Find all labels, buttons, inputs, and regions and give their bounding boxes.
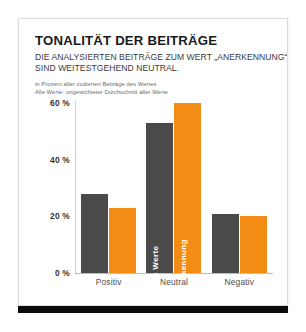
bar-neutral-alle-werte[interactable]: Alle Werte [146, 123, 173, 273]
x-axis-label-negativ: Negativ [207, 277, 272, 287]
bar-negativ-anerkennung[interactable] [240, 216, 267, 273]
x-axis-label-neutral: Neutral [141, 277, 206, 287]
x-axis-labels: PositivNeutralNegativ [76, 277, 272, 287]
bar-neutral-anerkennung[interactable]: Anerkennung [174, 103, 201, 273]
chart-note-line-2: Alle Werte: ungewichteter Durchschnitt a… [35, 88, 277, 96]
chart-card: TONALITÄT DER BEITRÄGE DIE ANALYSIERTEN … [18, 18, 288, 306]
bar-chart-plot: 0 %20 %40 %60 % Alle WerteAnerkennung Po… [35, 97, 273, 297]
bar-groups: Alle WerteAnerkennung [76, 103, 272, 273]
bar-group-neutral: Alle WerteAnerkennung [141, 103, 206, 273]
y-axis-tick-label: 40 % [50, 155, 70, 165]
y-axis-tick-label: 20 % [50, 211, 70, 221]
bar-group-positiv [76, 103, 141, 273]
page-title: TONALITÄT DER BEITRÄGE [35, 34, 277, 49]
chart-note-line-1: in Prozent aller codierten Beiträge des … [35, 80, 277, 88]
bar-positiv-anerkennung[interactable] [109, 208, 136, 273]
bar-group-negativ [207, 103, 272, 273]
chart-subtitle-line-2: SIND WEITESTGEHEND NEUTRAL. [35, 63, 277, 74]
chart-notes: in Prozent aller codierten Beiträge des … [35, 80, 277, 97]
chart-header: TONALITÄT DER BEITRÄGE DIE ANALYSIERTEN … [35, 34, 277, 97]
bar-positiv-alle-werte[interactable] [81, 194, 108, 273]
y-axis-tick-label: 0 % [55, 268, 70, 278]
screenshot-root: TONALITÄT DER BEITRÄGE DIE ANALYSIERTEN … [0, 0, 306, 332]
card-footer-bar [18, 306, 288, 313]
x-axis-line [75, 273, 273, 274]
x-axis-label-positiv: Positiv [76, 277, 141, 287]
chart-subtitle-line-1: DIE ANALYSIERTEN BEITRÄGE ZUM WERT „ANER… [35, 52, 277, 63]
chart-subtitle: DIE ANALYSIERTEN BEITRÄGE ZUM WERT „ANER… [35, 52, 277, 74]
y-axis-tick-label: 60 % [50, 98, 70, 108]
bar-negativ-alle-werte[interactable] [212, 214, 239, 274]
